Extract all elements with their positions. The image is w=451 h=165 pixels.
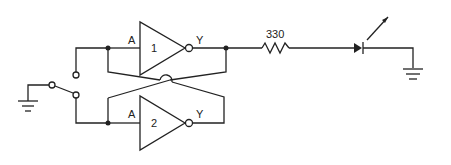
gate2-output-label: Y xyxy=(196,108,204,120)
gate2-number-label: 2 xyxy=(151,117,157,129)
gate1-output-label: Y xyxy=(196,34,204,46)
spdt-switch xyxy=(49,48,108,123)
ground-symbol-left xyxy=(18,85,49,111)
inverter-gate-2 xyxy=(140,96,193,150)
gate1-number-label: 1 xyxy=(151,42,157,54)
resistor xyxy=(262,43,289,53)
ground-symbol-right xyxy=(403,69,423,79)
inverter-gate-1 xyxy=(140,22,193,75)
gate2-input-label: A xyxy=(128,108,136,120)
resistor-value-label: 330 xyxy=(266,28,284,40)
gate1-input-label: A xyxy=(128,34,136,46)
circuit-diagram: A 1 Y A 2 Y 330 xyxy=(0,0,451,165)
